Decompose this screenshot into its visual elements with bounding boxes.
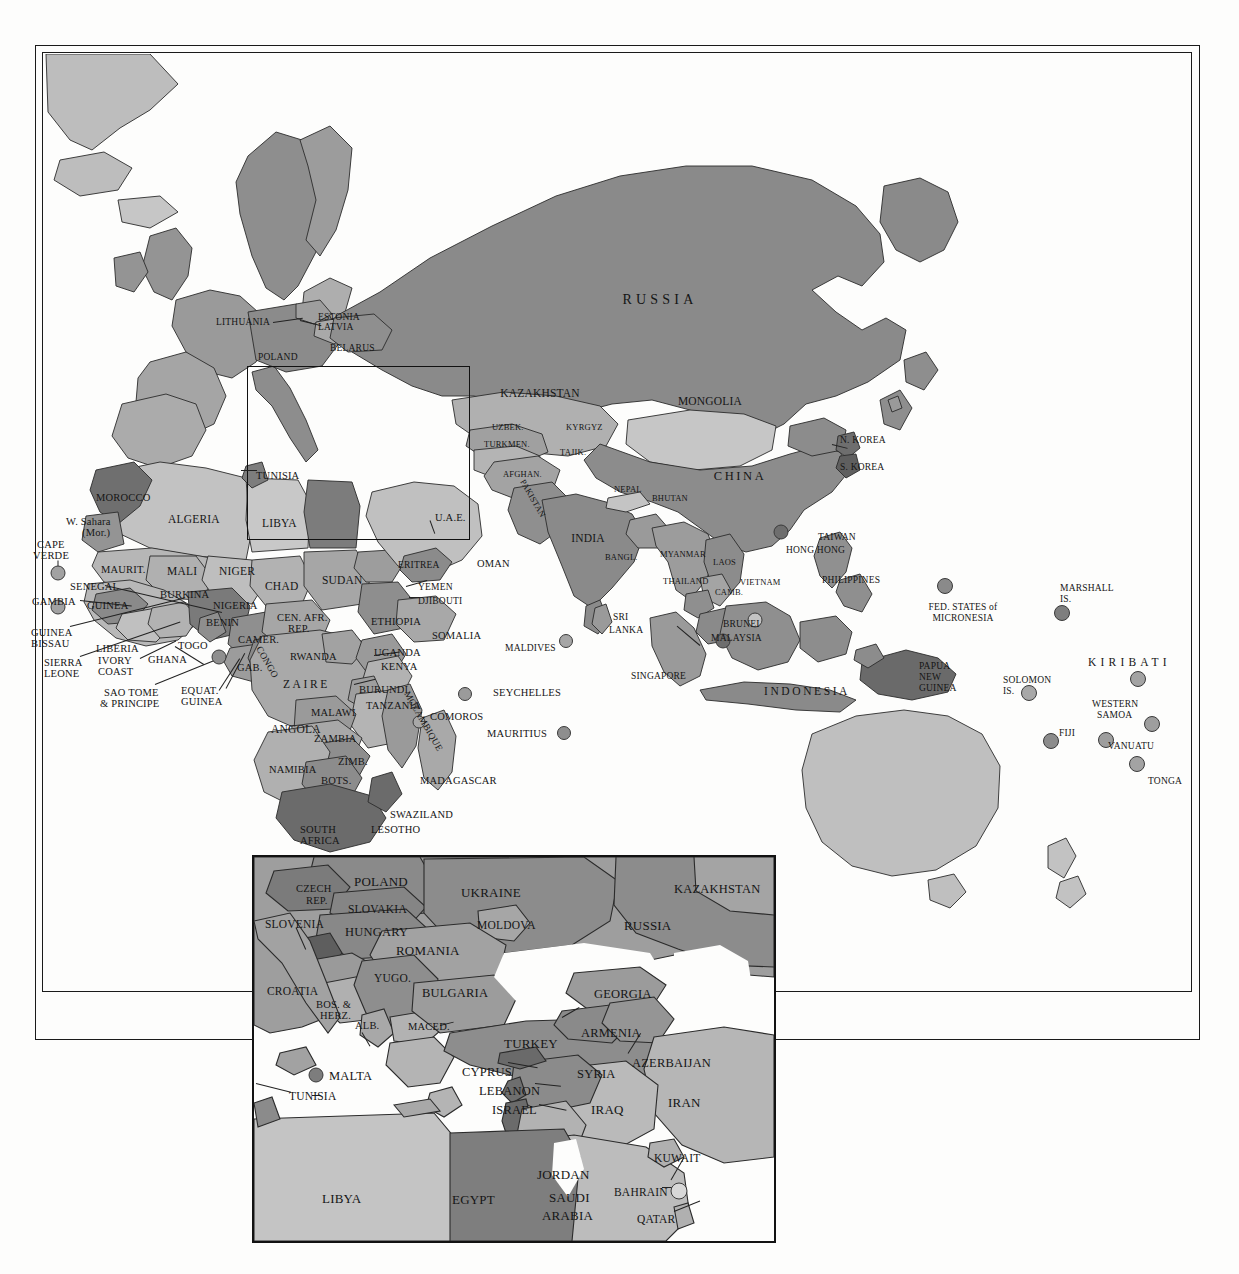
inset-label-bahrain: BAHRAIN (614, 1187, 668, 1199)
inset-label-cyprus: CYPRUS (462, 1066, 512, 1079)
inset-label-hungary: HUNGARY (345, 926, 408, 939)
inset-label-turkey: TURKEY (504, 1037, 558, 1050)
world-map-figure: RUSSIAKAZAKHSTANMONGOLIACHINALITHUANIAES… (0, 0, 1239, 1274)
inset-label-qatar: QATAR (637, 1214, 675, 1226)
inset-dot-bahrain (671, 1183, 688, 1200)
inset-label-herz: HERZ. (320, 1011, 351, 1022)
inset-label-syria: SYRIA (577, 1068, 616, 1081)
inset-label-poland: POLAND (354, 875, 408, 888)
inset-label-georgia: GEORGIA (594, 988, 652, 1001)
inset-dot-malta (309, 1068, 324, 1083)
inset-label-israel: ISRAEL (492, 1104, 537, 1117)
inset-label-libya: LIBYA (322, 1192, 361, 1205)
inset-label-croatia: CROATIA (267, 986, 318, 998)
inset-label-ukraine: UKRAINE (461, 886, 521, 899)
inset-label-moldova: MOLDOVA (477, 920, 536, 932)
inset-label-kuwait: KUWAIT (654, 1153, 701, 1165)
inset-label-yugo: YUGO. (374, 973, 411, 985)
inset-label-bulgaria: BULGARIA (422, 987, 488, 1000)
inset-label-arabia: ARABIA (542, 1209, 593, 1222)
inset-label-slovenia: SLOVENIA (265, 919, 324, 931)
inset-label-saudi: SAUDI (549, 1191, 590, 1204)
inset-label-alb: ALB. (355, 1021, 379, 1032)
inset-label-armenia: ARMENIA (581, 1027, 641, 1040)
inset-label-egypt: EGYPT (452, 1193, 495, 1206)
inset-label-jordan: JORDAN (537, 1168, 589, 1181)
inset-label-azerbaijan: AZERBAIJAN (632, 1057, 711, 1070)
inset-label-kazakhstan: KAZAKHSTAN (674, 883, 760, 896)
inset-map-panel: POLANDCZECHREP.SLOVAKIAUKRAINEKAZAKHSTAN… (252, 855, 776, 1243)
inset-label-iraq: IRAQ (591, 1103, 624, 1116)
frame-inner-rule (42, 52, 1192, 992)
inset-label-russia: RUSSIA (624, 919, 671, 932)
inset-label-tunisia: TUNISIA (289, 1091, 336, 1103)
inset-label-malta: MALTA (329, 1070, 372, 1083)
inset-label-slovakia: SLOVAKIA (348, 904, 407, 916)
inset-label-czech: CZECH (296, 884, 331, 895)
inset-label-romania: ROMANIA (396, 944, 460, 957)
inset-label-lebanon: LEBANON (479, 1085, 540, 1098)
inset-label-maced: MACED. (408, 1022, 450, 1033)
inset-label-iran: IRAN (668, 1096, 701, 1109)
inset-label-rep: REP. (306, 896, 328, 907)
